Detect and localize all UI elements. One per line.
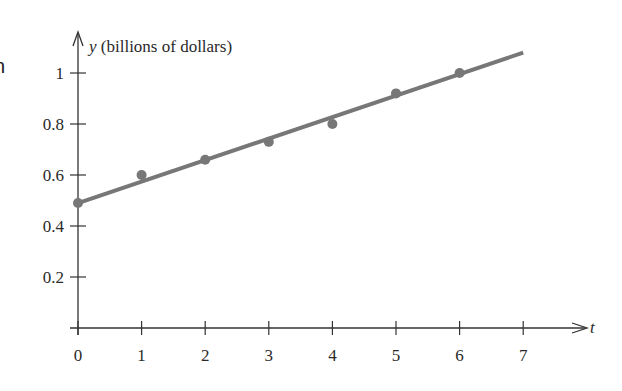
data-point (200, 155, 210, 165)
axes: 012345670.20.40.60.81 (43, 32, 587, 365)
data-point (73, 198, 83, 208)
chart: 012345670.20.40.60.81 y (billions of dol… (0, 0, 622, 391)
y-axis-label: y (billions of dollars) (87, 37, 232, 56)
data-point (327, 119, 337, 129)
data-point (391, 88, 401, 98)
x-tick-label: 3 (265, 346, 274, 365)
data-points (73, 68, 465, 208)
x-tick-label: 5 (392, 346, 401, 365)
x-tick-label: 4 (328, 346, 337, 365)
data-point (264, 137, 274, 147)
y-tick-label: 1 (56, 64, 65, 83)
x-tick-label: 7 (519, 346, 528, 365)
data-point (455, 68, 465, 78)
x-tick-label: 0 (74, 346, 83, 365)
x-tick-label: 1 (137, 346, 146, 365)
y-tick-label: 0.2 (43, 268, 64, 287)
y-tick-label: 0.8 (43, 115, 64, 134)
y-tick-label: 0.6 (43, 166, 64, 185)
axis-labels: y (billions of dollars)t (87, 37, 596, 337)
data-point (137, 170, 147, 180)
x-axis-label: t (590, 318, 596, 337)
y-tick-label: 0.4 (43, 217, 65, 236)
x-tick-label: 2 (201, 346, 210, 365)
x-tick-label: 6 (455, 346, 464, 365)
